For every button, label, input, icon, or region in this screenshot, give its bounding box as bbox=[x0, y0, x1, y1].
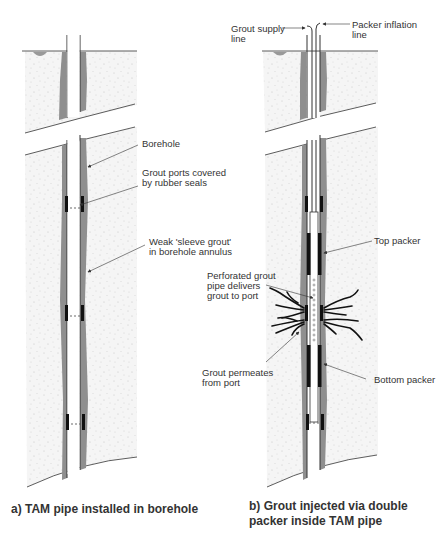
caption-b-1: b) Grout injected via double bbox=[249, 499, 408, 513]
tam-pipe-bore-upper-b bbox=[307, 52, 320, 118]
label-grout-supply-2: line bbox=[231, 33, 246, 44]
label-borehole: Borehole bbox=[142, 138, 180, 149]
label-perforated-3: grout to port bbox=[207, 290, 259, 301]
packer-tool-body bbox=[310, 212, 318, 422]
sleeve-grout-b-upper-r bbox=[320, 52, 327, 112]
caption-a: a) TAM pipe installed in borehole bbox=[11, 502, 198, 516]
label-permeates-2: from port bbox=[202, 377, 240, 388]
tam-pipe-bore-upper-a bbox=[68, 35, 80, 117]
caption-b-2: packer inside TAM pipe bbox=[249, 514, 382, 528]
sleeve-grout-a-upper-r bbox=[80, 52, 87, 112]
label-packer-inflation-2: line bbox=[352, 29, 367, 40]
label-top-packer: Top packer bbox=[374, 235, 420, 246]
tam-grouting-diagram: Borehole Grout ports covered by rubber s… bbox=[0, 0, 446, 545]
label-sleeve-grout-2: in borehole annulus bbox=[149, 246, 232, 257]
sleeve-grout-b-upper-l bbox=[300, 52, 306, 120]
label-grout-ports-2: by rubber seals bbox=[142, 177, 207, 188]
label-bottom-packer: Bottom packer bbox=[374, 374, 435, 385]
panel-a: Borehole Grout ports covered by rubber s… bbox=[11, 35, 232, 516]
panel-b: Grout supply line Packer inflation line … bbox=[202, 19, 435, 528]
tam-pipe-bore-lower-a bbox=[68, 140, 80, 474]
